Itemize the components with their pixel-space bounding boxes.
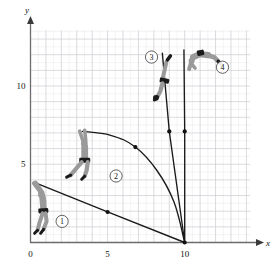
limb [41,229,44,233]
trajectory-trajectory-4 [184,50,185,242]
midpoint-dot-4 [183,129,187,133]
midpoint-dot-2 [133,145,137,149]
limb [67,175,71,177]
limb [191,63,195,68]
y-axis-arrow-icon [27,16,34,24]
limb [82,176,85,179]
callout-2-label: 2 [114,172,118,181]
x-axis-arrow-icon [256,239,264,246]
head [38,192,44,198]
callout-3-label: 3 [150,53,154,62]
head [189,58,195,64]
x-tick-labels: 0510 [28,249,189,259]
x-tick-5: 5 [105,249,110,259]
limb [44,213,47,229]
y-axis-label: y [24,5,29,15]
midpoint-dot-3 [167,129,171,133]
callout-1-label: 1 [60,217,64,226]
x-axis-label: x [265,238,270,248]
head [81,141,87,147]
x-tick-0: 0 [28,249,33,259]
midpoint-dot-1 [106,210,110,214]
y-tick-10: 10 [17,81,27,91]
y-tick-5: 5 [21,159,26,169]
limb [167,56,170,60]
x-tick-10: 10 [180,249,190,259]
figure-container: x y 0510 510 1234 [0,0,279,273]
pivot-dot [183,240,187,244]
limb [35,230,38,233]
callout-4-label: 4 [220,63,224,72]
y-tick-labels: 510 [17,81,27,169]
limb [43,198,44,209]
trajectory-plot: x y 0510 510 1234 [0,0,279,273]
head [153,95,159,101]
